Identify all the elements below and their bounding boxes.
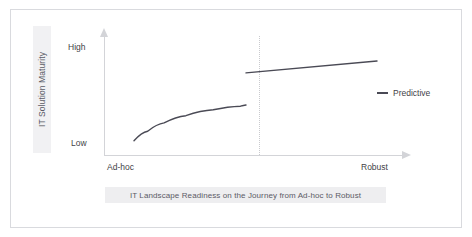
legend-line-swatch-predictive bbox=[377, 92, 388, 94]
series-line-predictive bbox=[246, 61, 377, 73]
x-axis-label-robust: Robust bbox=[361, 162, 388, 172]
chart-legend: Predictive bbox=[377, 88, 430, 98]
chart-figure: IT Solution Maturity High Low Predictive… bbox=[0, 0, 472, 237]
chart-caption-band: IT Landscape Readiness on the Journey fr… bbox=[105, 187, 386, 203]
series-line-adhoc bbox=[134, 105, 246, 141]
x-axis-label-adhoc: Ad-hoc bbox=[107, 162, 134, 172]
legend-label-predictive: Predictive bbox=[393, 88, 430, 98]
chart-caption: IT Landscape Readiness on the Journey fr… bbox=[130, 191, 361, 200]
